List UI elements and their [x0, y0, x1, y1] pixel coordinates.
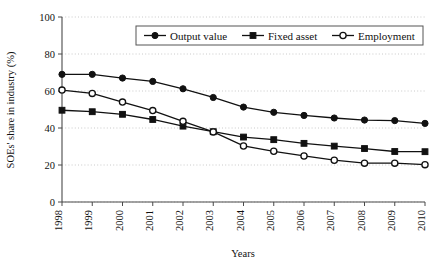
- x-tick-label-2002: 2002: [174, 210, 185, 231]
- data-point-0-2008: [361, 117, 367, 123]
- legend-label-1: Fixed asset: [268, 30, 317, 42]
- data-point-0-2000: [119, 75, 125, 81]
- x-tick-label-1998: 1998: [53, 210, 64, 231]
- data-point-1-2000: [120, 111, 126, 117]
- series-employment: [59, 87, 428, 168]
- x-tick-label-2003: 2003: [204, 210, 215, 231]
- series-output-value: [59, 71, 428, 126]
- x-tick-label-2001: 2001: [144, 210, 155, 231]
- series-group: [59, 71, 428, 167]
- data-point-2-2008: [361, 160, 367, 166]
- x-tick-label-2005: 2005: [265, 210, 276, 231]
- y-tick-label-80: 80: [45, 49, 56, 60]
- data-point-0-2007: [331, 115, 337, 121]
- data-point-0-1998: [59, 71, 65, 77]
- data-point-2-2004: [240, 143, 246, 149]
- data-point-2-1999: [89, 90, 95, 96]
- legend-label-0: Output value: [170, 30, 227, 42]
- data-point-0-2005: [271, 109, 277, 115]
- data-point-0-2002: [180, 86, 186, 92]
- y-tick-label-0: 0: [50, 197, 55, 208]
- data-point-1-2008: [362, 146, 368, 152]
- data-point-0-2009: [392, 118, 398, 124]
- data-point-0-2001: [150, 78, 156, 84]
- data-point-1-2010: [422, 149, 428, 155]
- y-tick-label-40: 40: [45, 123, 56, 134]
- data-point-2-2010: [422, 162, 428, 168]
- data-point-2-1998: [59, 87, 65, 93]
- y-axis-title: SOEs' share in industry (%): [5, 51, 17, 168]
- data-point-1-2007: [331, 143, 337, 149]
- data-point-2-2005: [271, 148, 277, 154]
- data-point-1-1998: [59, 107, 65, 113]
- y-axis-ticks: 020406080100: [39, 12, 62, 208]
- data-point-0-2006: [301, 112, 307, 118]
- data-point-2-2009: [392, 160, 398, 166]
- x-tick-label-2007: 2007: [325, 210, 336, 231]
- legend-marker-1: [250, 33, 256, 39]
- data-point-0-2004: [240, 104, 246, 110]
- series-line-2: [62, 90, 425, 165]
- y-tick-label-60: 60: [45, 86, 56, 97]
- legend-marker-0: [152, 32, 158, 38]
- data-point-2-2006: [301, 153, 307, 159]
- data-point-2-2002: [180, 118, 186, 124]
- data-point-1-2005: [271, 137, 277, 143]
- x-tick-label-2009: 2009: [386, 210, 397, 231]
- data-point-2-2007: [331, 157, 337, 163]
- y-tick-label-20: 20: [45, 160, 56, 171]
- x-tick-label-1999: 1999: [83, 210, 94, 231]
- x-tick-label-2006: 2006: [295, 210, 306, 231]
- legend-marker-2: [340, 32, 346, 38]
- chart-page: 020406080100 199819992000200120022003200…: [0, 0, 438, 263]
- data-point-2-2003: [210, 129, 216, 135]
- data-point-1-2009: [392, 149, 398, 155]
- x-axis-ticks: 1998199920002001200220032004200520062007…: [53, 202, 427, 231]
- data-point-1-2001: [150, 117, 156, 123]
- x-tick-label-2004: 2004: [235, 209, 246, 231]
- x-tick-label-2008: 2008: [356, 210, 367, 231]
- x-tick-label-2010: 2010: [416, 210, 427, 231]
- series-line-0: [62, 74, 425, 123]
- legend-label-2: Employment: [358, 30, 415, 42]
- data-point-2-2001: [150, 108, 156, 114]
- data-point-1-1999: [89, 109, 95, 115]
- x-axis-title: Years: [231, 248, 254, 259]
- data-point-1-2006: [301, 140, 307, 146]
- data-point-0-2003: [210, 94, 216, 100]
- x-tick-label-2000: 2000: [114, 210, 125, 231]
- data-point-0-1999: [89, 71, 95, 77]
- chart-legend: Output valueFixed assetEmployment: [136, 26, 423, 45]
- data-point-1-2004: [241, 134, 247, 140]
- y-tick-label-100: 100: [39, 12, 55, 23]
- data-point-0-2010: [422, 120, 428, 126]
- data-point-2-2000: [119, 99, 125, 105]
- soes-share-line-chart: 020406080100 199819992000200120022003200…: [0, 0, 438, 263]
